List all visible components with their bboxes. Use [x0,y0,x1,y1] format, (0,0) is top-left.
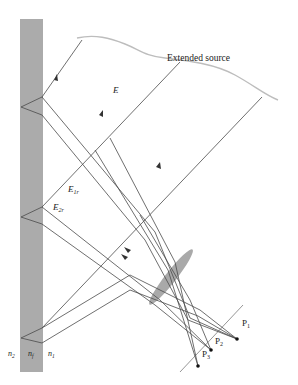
label-n1-sub: 1 [52,353,55,359]
reflected-ray-1a [42,97,237,339]
label-p1-sub: 1 [247,323,250,329]
label-e: E [112,85,119,95]
reflected-ray-3a [42,275,237,339]
label-extended-source: Extended source [167,53,230,63]
label-p2-sub: 2 [220,341,223,347]
incident-ray-2 [42,62,180,207]
label-n2-sub: 2 [12,353,15,359]
point-p2 [209,348,213,352]
label-n2: n2 [8,349,15,359]
label-p3-sub: 3 [207,354,210,360]
point-p1 [235,337,239,341]
label-p2: P2 [215,336,223,347]
thin-film-interference-diagram: Extended source E E1r E2r n2 nf n1 P1 P2… [0,0,298,385]
converging-ray-p3a [110,138,198,366]
extended-source-curve [77,36,278,100]
reflected-ray-2a [42,207,211,350]
arrowhead-incident-3 [156,162,161,169]
label-e1r: E1r [67,184,80,195]
reflected-ray-2b [42,224,211,350]
label-n1: n1 [48,349,55,359]
incident-ray-1 [42,40,82,97]
label-e2r-sub: 2r [59,207,65,213]
arrowhead-reflected-2 [121,254,128,260]
arrowhead-incident-2 [99,110,103,117]
arrowhead-reflected-1 [124,247,131,253]
label-e1r-sub: 1r [74,189,80,195]
reflected-ray-1b [42,115,237,339]
label-p1: P1 [242,318,250,329]
point-p3 [196,364,200,368]
label-p3: P3 [202,349,210,360]
thin-film [20,19,43,372]
label-e2r: E2r [52,202,65,213]
